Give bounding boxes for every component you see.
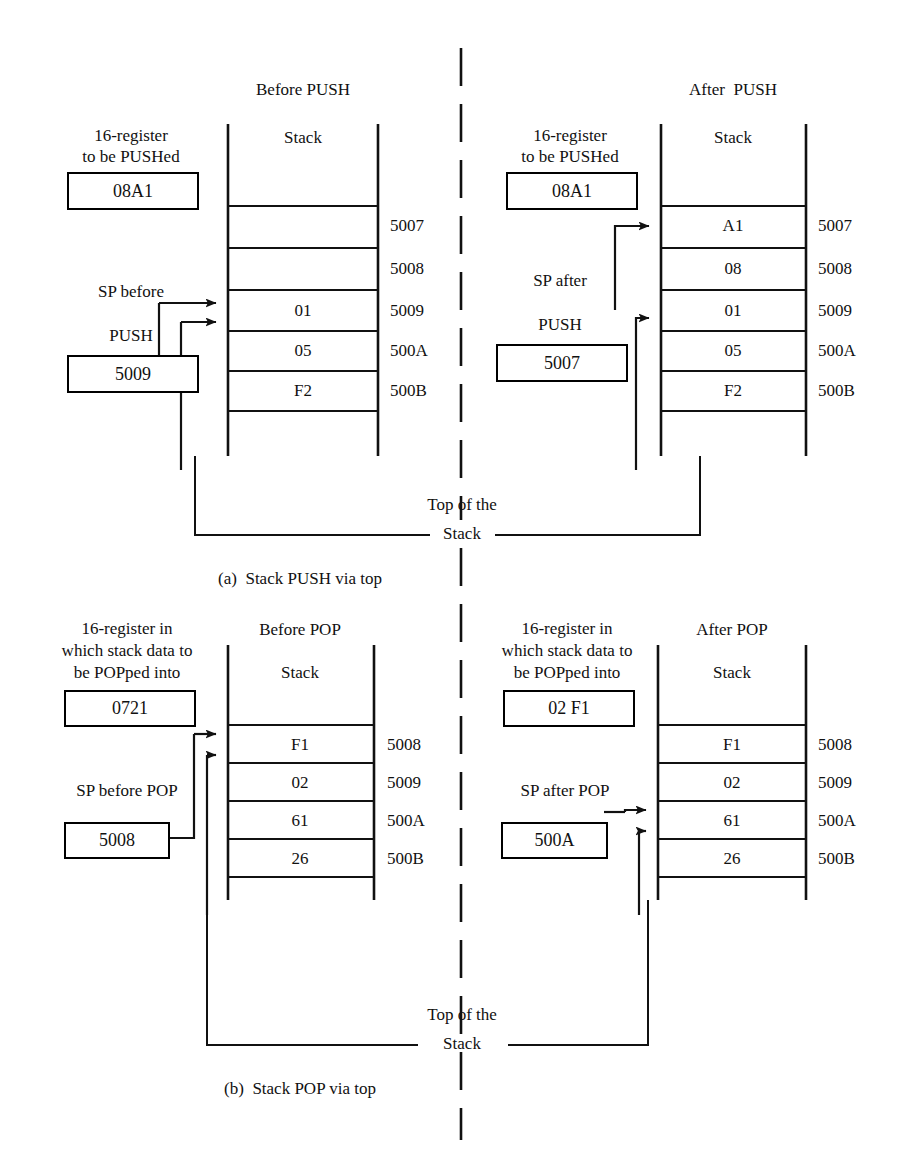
pop-after-register-caption-line2: which stack data to: [502, 641, 633, 661]
push-before-title: Before PUSH: [256, 80, 350, 100]
push-after-register-caption-line1: 16-register: [533, 126, 607, 146]
push-before-stack-grid: [228, 124, 378, 456]
push-before-register-value: 08A1: [113, 181, 153, 202]
push-after-cell-value-5009: 01: [725, 301, 742, 321]
push-before-register-caption-line1: 16-register: [94, 126, 168, 146]
pop-before-register-caption-line3: be POPped into: [74, 663, 181, 683]
pop-after-register-caption-line3: be POPped into: [514, 663, 621, 683]
push-after-address-5009: 5009: [818, 301, 852, 321]
push-before-address-500A: 500A: [390, 341, 428, 361]
pop-before-register-caption-line1: 16-register in: [81, 619, 172, 639]
push-before-address-5008: 5008: [390, 259, 424, 279]
push-before-address-500B: 500B: [390, 381, 427, 401]
pop-before-sp-caption: SP before POP: [76, 781, 177, 801]
pop-top-of-stack-line2: Stack: [443, 1034, 481, 1054]
push-after-stack-grid: [661, 124, 806, 456]
pop-before-register-caption-line2: which stack data to: [62, 641, 193, 661]
push-before-cell-value-500A: 05: [295, 341, 312, 361]
pop-before-address-500B: 500B: [387, 849, 424, 869]
pop-after-sp-value: 500A: [535, 830, 575, 851]
push-after-address-500B: 500B: [818, 381, 855, 401]
push-after-register-box: 08A1: [506, 172, 638, 210]
push-before-sp-caption-line2: PUSH: [109, 326, 152, 346]
pop-after-register-box: 02 F1: [503, 690, 635, 727]
pop-before-address-5009: 5009: [387, 773, 421, 793]
pop-after-address-500A: 500A: [818, 811, 856, 831]
pop-after-register-caption-line1: 16-register in: [521, 619, 612, 639]
pop-after-stack-header: Stack: [713, 663, 751, 683]
push-after-sp-caption-line1: SP after: [533, 271, 587, 291]
pop-after-address-5008: 5008: [818, 735, 852, 755]
push-after-address-500A: 500A: [818, 341, 856, 361]
push-after-sp-value: 5007: [544, 353, 580, 374]
pop-before-address-500A: 500A: [387, 811, 425, 831]
pop-before-cell-value-5009: 02: [292, 773, 309, 793]
pop-after-register-value: 02 F1: [548, 698, 590, 719]
push-after-register-caption-line2: to be PUSHed: [521, 147, 618, 167]
push-before-stack-header: Stack: [284, 128, 322, 148]
pop-before-register-value: 0721: [112, 698, 148, 719]
pop-after-cell-value-500B: 26: [724, 849, 741, 869]
figure-canvas: Before PUSH Stack 16-register to be PUSH…: [0, 0, 911, 1156]
push-after-address-5008: 5008: [818, 259, 852, 279]
pop-before-cell-value-5008: F1: [291, 735, 309, 755]
pop-top-of-stack-line1: Top of the: [427, 1005, 497, 1025]
pop-before-sp-box: 5008: [64, 822, 170, 859]
push-after-cell-value-500B: F2: [724, 381, 742, 401]
push-figure-caption: (a) Stack PUSH via top: [218, 569, 382, 589]
pop-before-sp-pointers: [166, 734, 216, 915]
push-after-register-value: 08A1: [552, 181, 592, 202]
pop-after-title: After POP: [696, 620, 767, 640]
pop-figure-caption: (b) Stack POP via top: [224, 1079, 376, 1099]
push-before-sp-value: 5009: [115, 364, 151, 385]
pop-before-cell-value-500B: 26: [292, 849, 309, 869]
push-after-sp-caption-line2: PUSH: [538, 315, 581, 335]
push-before-sp-caption-line1: SP before: [98, 282, 164, 302]
pop-after-address-500B: 500B: [818, 849, 855, 869]
push-before-register-caption-line2: to be PUSHed: [82, 147, 179, 167]
pop-before-register-box: 0721: [64, 690, 196, 727]
push-after-cell-value-5007: A1: [723, 216, 744, 236]
push-after-cell-value-500A: 05: [725, 341, 742, 361]
pop-after-sp-box: 500A: [501, 822, 608, 859]
pop-before-cell-value-500A: 61: [292, 811, 309, 831]
push-before-address-5007: 5007: [390, 216, 424, 236]
pop-after-sp-pointers: [604, 810, 646, 915]
push-after-sp-box: 5007: [496, 344, 628, 382]
pop-after-address-5009: 5009: [818, 773, 852, 793]
pop-after-cell-value-500A: 61: [724, 811, 741, 831]
pop-after-cell-value-5009: 02: [724, 773, 741, 793]
pop-after-cell-value-5008: F1: [723, 735, 741, 755]
push-after-address-5007: 5007: [818, 216, 852, 236]
pop-before-address-5008: 5008: [387, 735, 421, 755]
pop-before-sp-value: 5008: [99, 830, 135, 851]
pop-before-stack-header: Stack: [281, 663, 319, 683]
push-before-sp-box: 5009: [67, 355, 199, 393]
push-after-title: After PUSH: [689, 80, 777, 100]
pop-before-title: Before POP: [259, 620, 341, 640]
push-top-of-stack-line1: Top of the: [427, 495, 497, 515]
push-after-cell-value-5008: 08: [725, 259, 742, 279]
push-before-cell-value-500B: F2: [294, 381, 312, 401]
push-top-of-stack-line2: Stack: [443, 524, 481, 544]
pop-after-sp-caption: SP after POP: [520, 781, 609, 801]
push-after-stack-header: Stack: [714, 128, 752, 148]
push-before-register-box: 08A1: [67, 172, 199, 210]
push-before-address-5009: 5009: [390, 301, 424, 321]
push-before-cell-value-5009: 01: [295, 301, 312, 321]
